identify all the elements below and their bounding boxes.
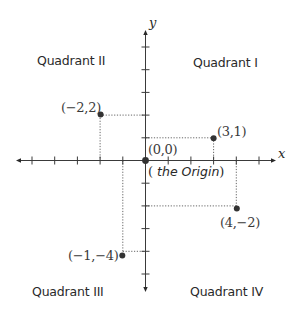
origin-note-close-paren: ) xyxy=(219,164,224,179)
coordinate-plane-diagram: y x Quadrant II Quadrant I Quadrant III … xyxy=(0,0,296,311)
point-4-neg2 xyxy=(234,206,240,212)
x-axis-left-arrow-icon xyxy=(16,158,21,162)
quadrant-4-label: Quadrant IV xyxy=(190,284,263,299)
origin-label: (0,0) xyxy=(148,142,177,157)
quadrant-3-label: Quadrant III xyxy=(32,284,104,299)
origin-point xyxy=(142,157,149,164)
quadrant-1-label: Quadrant I xyxy=(193,55,258,70)
x-axis-label: x xyxy=(278,146,285,161)
y-axis-up-arrow-icon xyxy=(143,30,147,35)
origin-note: ( the Origin) xyxy=(148,164,224,180)
origin-note-text: the Origin xyxy=(153,164,219,179)
y-axis-down-arrow-icon xyxy=(143,287,147,292)
point-label-neg1-neg4: (−1,−4) xyxy=(68,248,119,263)
point-label-neg2-2: (−2,2) xyxy=(61,100,101,115)
point-3-1 xyxy=(211,135,217,141)
quadrant-2-label: Quadrant II xyxy=(37,53,105,68)
y-axis-label: y xyxy=(149,15,156,30)
point-label-4-neg2: (4,−2) xyxy=(220,215,260,230)
point-label-3-1: (3,1) xyxy=(217,124,246,139)
guide-lines xyxy=(100,115,236,251)
x-axis-right-arrow-icon xyxy=(271,158,276,162)
point-neg1-neg4 xyxy=(119,253,125,259)
